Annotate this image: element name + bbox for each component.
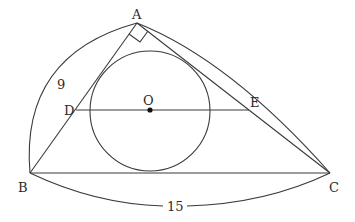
label-a: A bbox=[131, 7, 142, 22]
center-point-o bbox=[147, 107, 152, 112]
geometry-diagram: A B C D E O 9 15 bbox=[0, 0, 355, 222]
label-c: C bbox=[329, 180, 339, 195]
side-ac bbox=[137, 23, 330, 173]
label-b: B bbox=[18, 180, 28, 195]
label-o: O bbox=[143, 93, 154, 108]
side-ab bbox=[30, 23, 137, 173]
label-e: E bbox=[250, 95, 260, 110]
measure-bc: 15 bbox=[167, 199, 184, 214]
arc-bc-dimension-right bbox=[187, 173, 330, 206]
measure-ab: 9 bbox=[57, 77, 65, 92]
arc-bc-dimension-left bbox=[30, 173, 163, 206]
label-d: D bbox=[64, 103, 74, 118]
right-angle-marker bbox=[129, 31, 148, 42]
